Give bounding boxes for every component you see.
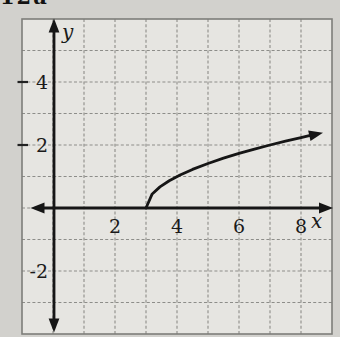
- x-axis-label: x: [311, 209, 322, 233]
- x-axis-tick-label: 8: [295, 215, 307, 237]
- y-axis-label: y: [61, 20, 74, 44]
- y-axis-tick-label: 4: [36, 71, 48, 93]
- coordinate-grid-chart: 42-22468yx: [0, 0, 340, 337]
- y-axis-tick-label: 2: [36, 134, 48, 156]
- x-axis-tick-label: 6: [233, 215, 245, 237]
- textbook-graph-figure: 12a 42-22468yx: [0, 0, 340, 337]
- x-axis-tick-label: 4: [171, 215, 183, 237]
- x-axis-tick-label: 2: [109, 215, 121, 237]
- y-axis-tick-label: -2: [29, 260, 48, 282]
